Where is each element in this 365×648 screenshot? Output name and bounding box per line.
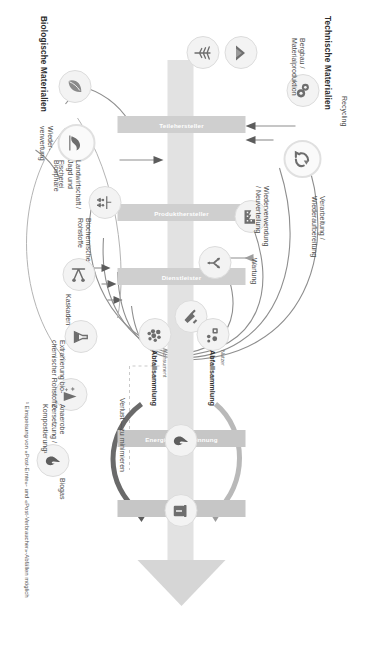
farming-icon [88, 186, 121, 219]
mining-icon [224, 36, 257, 69]
biosphere-icon [57, 124, 95, 162]
cascade-icon [62, 258, 95, 291]
actor-consumer: Konsument [161, 350, 167, 377]
chain-column-produkthersteller: Produkthersteller [117, 204, 245, 221]
recycling-arrows-icon [283, 140, 321, 178]
label-refurbish: Verarbeitung / Wiederaufbereitung [309, 196, 326, 257]
diagram-frame: Teilehersteller Produkthersteller Dienst… [0, 0, 365, 648]
label-loss: Verlust —zu minimieren [117, 398, 125, 472]
landfill-icon [164, 494, 197, 527]
energy-recovery-icon [164, 424, 197, 457]
label-regeneration: Wieder- verwertung [37, 126, 54, 161]
label-waste-collection-user: Abfallsammlung [207, 350, 215, 406]
label-maintain: Wartung [249, 258, 257, 284]
label-biogas: Biogas [57, 478, 65, 499]
chain-column-label: Teilehersteller [159, 121, 204, 128]
user-waste-icon [196, 318, 229, 351]
label-waste-collection-consumer: Abfallsammlung [149, 350, 157, 406]
label-recycling: Recycling [339, 96, 347, 126]
butterfly-diagram-canvas: Teilehersteller Produkthersteller Dienst… [0, 0, 365, 648]
label-anaerobic: Anaerobe Zersetzung / Kompostierung¹ [40, 404, 65, 453]
extraction-icon [186, 36, 219, 69]
consumer-waste-icon [138, 318, 171, 351]
chain-column-teilehersteller: Teilehersteller [117, 116, 245, 133]
label-mining-source: Bergbau / Materialproduktion [289, 38, 306, 96]
leaf-icon [58, 70, 91, 103]
label-biochemical-feedstock: Biochemische Rohstoffe [75, 218, 92, 262]
heading-biological: Biologische Materialien [37, 16, 47, 112]
label-cascades: Kaskaden [63, 294, 71, 325]
chain-column-label: Produkthersteller [154, 209, 209, 216]
redistribute-icon [198, 246, 231, 279]
label-extraction: Extrahierung bio- chemischer Rohstoffe¹ [49, 340, 66, 410]
label-biosphere: Biosphäre [51, 160, 59, 192]
heading-technical: Technische Materialien [321, 16, 331, 110]
actor-user: Nutzer [219, 350, 225, 366]
label-reuse: Wiederverwendung / Neuverteilung [253, 186, 270, 246]
footnote: ¹ Einspeisung von «Post-Ernte»- und «Pos… [22, 402, 29, 632]
chain-column-label: Dienstleister [161, 273, 201, 280]
flow-direction-arrow [137, 560, 225, 606]
label-farming-source: Landwirtschaft / Jagd und Fischerei [56, 160, 81, 209]
